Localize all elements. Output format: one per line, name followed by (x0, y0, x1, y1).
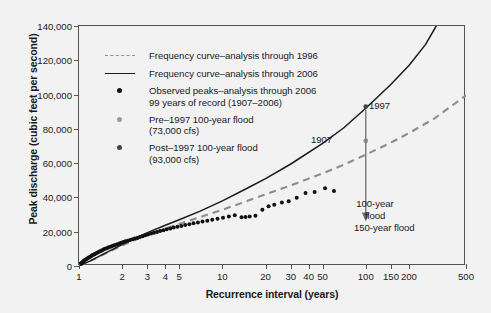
data-point (196, 220, 200, 224)
data-point (183, 223, 187, 227)
x-tick-label: 30 (285, 271, 296, 282)
legend-solid-line-icon (105, 73, 135, 74)
chart-legend: Frequency curve–analysis through 1996Fre… (101, 50, 318, 171)
x-tick-label: 20 (260, 271, 271, 282)
data-point (260, 208, 264, 212)
x-tick-mark (165, 264, 166, 269)
data-point (210, 218, 214, 222)
x-tick-label: 2 (119, 271, 124, 282)
legend-key-black-dot (101, 85, 149, 97)
legend-item-label: Frequency curve–analysis through 1996 (149, 50, 318, 62)
data-point (179, 224, 183, 228)
legend-item: Post–1997 100-year flood (93,000 cfs) (101, 142, 318, 165)
x-tick-mark (466, 264, 467, 269)
x-tick-mark (266, 264, 267, 269)
y-tick-mark (74, 26, 79, 27)
y-tick-mark (74, 163, 79, 164)
data-point (244, 215, 248, 219)
legend-item: Frequency curve–analysis through 1996 (101, 50, 318, 62)
legend-item: Observed peaks–analysis through 2006 99 … (101, 85, 318, 108)
x-tick-label: 500 (458, 271, 474, 282)
y-axis-title: Peak discharge (cubic feet per second) (27, 4, 39, 254)
x-tick-mark (323, 264, 324, 269)
x-tick-label: 3 (145, 271, 150, 282)
legend-dot-icon (117, 88, 122, 93)
data-point (227, 214, 231, 218)
x-axis-title: Recurrence interval (years) (78, 288, 466, 300)
y-tick-label: 40,000 (43, 192, 72, 203)
x-tick-mark (409, 264, 410, 269)
x-tick-mark (179, 264, 180, 269)
data-point (253, 214, 257, 218)
annotation-150-year-flood: 150-year flood (354, 222, 415, 233)
y-tick-label: 140,000 (37, 21, 72, 32)
legend-dot-icon (117, 145, 122, 150)
data-point (272, 203, 276, 207)
data-point (240, 215, 244, 219)
data-point (175, 225, 179, 229)
plot-area: 020,00040,00060,00080,000100,000120,0001… (78, 25, 465, 265)
x-tick-label: 1 (76, 271, 81, 282)
data-point (201, 220, 205, 224)
x-tick-mark (291, 264, 292, 269)
y-tick-mark (74, 95, 79, 96)
x-tick-mark (391, 264, 392, 269)
x-tick-mark (366, 264, 367, 269)
x-tick-label: 40 (303, 271, 314, 282)
data-point (363, 104, 368, 109)
data-point (192, 221, 196, 225)
x-tick-mark (79, 264, 80, 269)
flood-frequency-chart: Peak discharge (cubic feet per second) R… (0, 0, 491, 313)
data-point (295, 196, 299, 200)
legend-key-darkgray-dot (101, 142, 149, 154)
legend-item-label: Frequency curve–analysis through 2006 (149, 68, 318, 80)
x-tick-mark (147, 264, 148, 269)
annotation-100-year-flood: 100-year flood (345, 198, 405, 221)
x-tick-mark (309, 264, 310, 269)
x-tick-label: 100 (358, 271, 374, 282)
data-point (304, 191, 308, 195)
legend-key-dashed-line (101, 50, 149, 62)
y-tick-mark (74, 232, 79, 233)
data-point (205, 219, 209, 223)
data-point (233, 213, 237, 217)
data-point (187, 222, 191, 226)
data-point (216, 217, 220, 221)
y-tick-mark (74, 197, 79, 198)
x-tick-label: 10 (217, 271, 228, 282)
data-point (248, 214, 252, 218)
y-tick-label: 120,000 (37, 55, 72, 66)
y-tick-label: 20,000 (43, 226, 72, 237)
data-point (313, 190, 317, 194)
y-tick-mark (74, 129, 79, 130)
data-point (165, 227, 169, 231)
x-tick-label: 200 (401, 271, 417, 282)
legend-key-gray-dot (101, 114, 149, 126)
legend-dashed-line-icon (105, 55, 135, 56)
legend-item-label: Post–1997 100-year flood (93,000 cfs) (149, 142, 258, 165)
data-point (221, 216, 225, 220)
x-tick-label: 50 (317, 271, 328, 282)
data-point (168, 226, 172, 230)
data-point (323, 186, 327, 190)
x-tick-label: 4 (163, 271, 168, 282)
scatter-group-2 (363, 104, 368, 109)
annotation-1997: 1997 (369, 100, 390, 111)
legend-item-label: Observed peaks–analysis through 2006 99 … (149, 85, 316, 108)
y-tick-label: 60,000 (43, 158, 72, 169)
data-point (267, 204, 271, 208)
scatter-group-0 (78, 186, 336, 266)
legend-item-label: Pre–1997 100-year flood (73,000 cfs) (149, 114, 253, 137)
x-tick-mark (122, 264, 123, 269)
y-tick-label: 80,000 (43, 123, 72, 134)
y-tick-mark (74, 60, 79, 61)
legend-item: Frequency curve–analysis through 2006 (101, 68, 318, 80)
x-tick-label: 5 (177, 271, 182, 282)
legend-key-solid-line (101, 68, 149, 80)
x-tick-mark (222, 264, 223, 269)
y-tick-label: 100,000 (37, 89, 72, 100)
data-point (280, 200, 284, 204)
data-point (172, 226, 176, 230)
data-point (287, 199, 291, 203)
legend-dot-icon (117, 117, 122, 122)
